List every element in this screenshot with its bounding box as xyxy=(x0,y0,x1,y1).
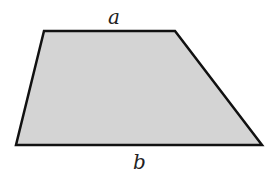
trapezoid-diagram: a b xyxy=(0,0,280,176)
bottom-base-label: b xyxy=(133,150,146,174)
trapezoid-shape xyxy=(16,31,262,145)
top-base-label: a xyxy=(108,5,120,29)
